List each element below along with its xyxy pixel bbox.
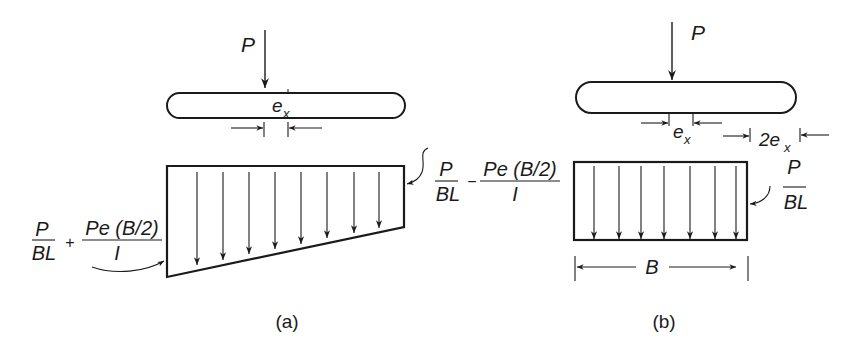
svg-text:P: P <box>35 218 49 240</box>
caption-a: (a) <box>275 311 298 332</box>
svg-text:I: I <box>512 183 518 205</box>
uniform-pressure-diagram <box>574 162 747 240</box>
pressure-arrows-b <box>594 166 736 239</box>
load-label-a: P <box>241 33 255 56</box>
eccentric-footing-pressure-diagram: P e x P <box>0 0 861 359</box>
svg-text:BL: BL <box>32 242 56 264</box>
double-eccentricity-dimension-b: 2e x <box>723 128 829 155</box>
panel-a: P e x P <box>32 30 560 332</box>
width-dimension-b: B <box>575 256 748 281</box>
svg-text:e: e <box>673 121 684 142</box>
eccentricity-dimension-a <box>231 122 322 137</box>
leader-arrow-min <box>407 148 428 184</box>
svg-text:Pe (B/2): Pe (B/2) <box>483 158 556 180</box>
caption-b: (b) <box>652 311 675 332</box>
svg-text:−: − <box>467 173 476 190</box>
footing-b <box>576 82 796 113</box>
svg-text:+: + <box>65 234 74 251</box>
svg-text:P: P <box>439 158 453 180</box>
uniform-pressure-formula: P BL <box>783 156 808 213</box>
svg-text:2e: 2e <box>758 129 780 150</box>
width-label: B <box>645 256 658 278</box>
leader-arrow-max <box>92 261 164 272</box>
svg-text:e: e <box>272 95 283 116</box>
svg-text:P: P <box>787 156 801 178</box>
panel-b: P e x 2e x <box>574 21 829 332</box>
load-arrow-a: P <box>241 30 265 88</box>
max-pressure-formula: P BL + Pe (B/2) I <box>32 217 162 264</box>
svg-text:x: x <box>683 132 691 147</box>
eccentricity-dimension-b: e x <box>641 113 722 147</box>
svg-text:BL: BL <box>436 183 460 205</box>
svg-text:I: I <box>114 242 120 264</box>
svg-text:Pe (B/2): Pe (B/2) <box>85 217 158 239</box>
trapezoidal-pressure-diagram <box>167 166 404 277</box>
load-label-b: P <box>691 21 705 44</box>
min-pressure-formula: P BL − Pe (B/2) I <box>435 158 560 205</box>
leader-arrow-uniform <box>750 186 770 204</box>
svg-text:x: x <box>783 140 791 155</box>
load-arrow-b: P <box>672 21 705 80</box>
svg-text:x: x <box>282 106 290 121</box>
svg-text:BL: BL <box>784 191 808 213</box>
